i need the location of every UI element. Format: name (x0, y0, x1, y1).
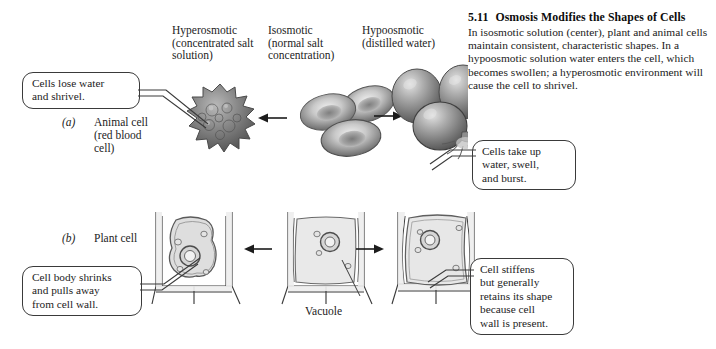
osmosis-figure: Hyperosmotic (concentrated salt solution… (0, 0, 716, 349)
row-label-plant-cell: Plant cell (94, 232, 137, 245)
callout-cell-body-shrinks: Cell body shrinks and pulls away from ce… (22, 266, 142, 316)
figure-caption: In isosmotic solution (center), plant an… (468, 26, 712, 92)
callout-leader-plant-right (426, 266, 476, 300)
normal-red-blood-cells (297, 79, 399, 160)
vacuole-label: Vacuole (305, 305, 342, 317)
arrow-plant-to-hyperosmotic (244, 245, 272, 254)
normal-plant-cell (282, 212, 372, 304)
callout-leader-animal-left (136, 84, 212, 130)
figure-title: Osmosis Modifies the Shapes of Cells (495, 10, 685, 25)
column-header-hypoosmotic: Hypoosmotic (distilled water) (362, 24, 435, 49)
callout-cells-lose-water: Cells lose water and shrivel. (22, 72, 140, 109)
callout-cells-take-up-water: Cells take up water, swell, and burst. (472, 140, 576, 190)
column-header-hyperosmotic: Hyperosmotic (concentrated salt solution… (172, 24, 253, 62)
callout-cell-stiffens: Cell stiffens but generally retains its … (470, 258, 574, 335)
column-header-isosmotic: Isosmotic (normal salt concentration) (268, 24, 334, 62)
animal-cell-row-illustration (178, 58, 468, 198)
caption-block: 5.11 Osmosis Modifies the Shapes of Cell… (468, 10, 712, 92)
row-letter-b: (b) (62, 232, 75, 244)
callout-leader-plant-left (138, 254, 204, 302)
figure-number: 5.11 (468, 10, 488, 25)
swollen-bursting-red-blood-cells (392, 65, 468, 159)
callout-leader-animal-right (428, 146, 478, 180)
arrow-to-hyperosmotic (258, 114, 287, 123)
row-letter-a: (a) (62, 116, 75, 128)
